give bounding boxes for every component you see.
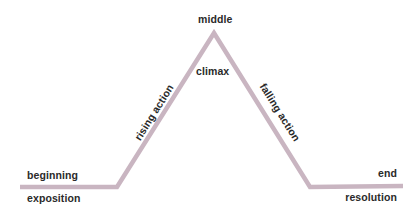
label-exposition: exposition xyxy=(27,193,81,204)
label-end: end xyxy=(378,168,397,179)
plot-diagram: middle climax rising action falling acti… xyxy=(0,0,417,218)
label-climax: climax xyxy=(196,66,229,77)
label-middle: middle xyxy=(198,14,232,25)
plot-line xyxy=(0,0,417,218)
label-resolution: resolution xyxy=(345,192,397,203)
label-beginning: beginning xyxy=(27,170,78,181)
